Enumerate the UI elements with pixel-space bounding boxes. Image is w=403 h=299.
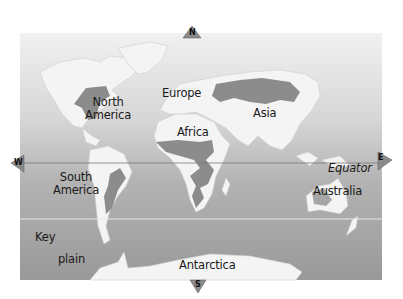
antarctica-label: Antarctica	[179, 259, 236, 272]
australia-label: Australia	[313, 185, 362, 198]
africa-label: Africa	[177, 126, 209, 139]
north-label: N	[189, 28, 196, 37]
key-item-plain: plain	[58, 253, 85, 266]
east-label: E	[378, 153, 383, 162]
asia-label: Asia	[253, 107, 276, 120]
europe-label: Europe	[162, 87, 201, 100]
north-america-label: North America	[78, 96, 138, 122]
south-label: S	[195, 280, 201, 289]
south-america-label-line2: America	[48, 184, 104, 197]
west-label: W	[14, 158, 23, 167]
equator-label: Equator	[328, 162, 372, 175]
south-america-label: South America	[48, 171, 104, 197]
north-america-label-line2: America	[78, 109, 138, 122]
key-title: Key	[35, 231, 55, 244]
